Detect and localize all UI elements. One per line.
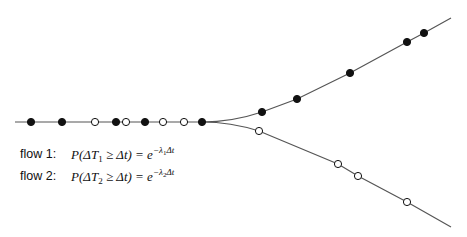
flow1-label: flow 1: bbox=[20, 147, 56, 161]
flow2-exponent-tail: Δt bbox=[166, 167, 174, 177]
flow2-packet-dot bbox=[159, 118, 166, 125]
flow1-packet-dot bbox=[141, 118, 148, 125]
flow1-packet-dot bbox=[293, 95, 300, 102]
flow1-packet-dot bbox=[27, 118, 34, 125]
flow2-packet-dot bbox=[334, 160, 341, 167]
flow1-packet-dot bbox=[346, 69, 353, 76]
diagram-canvas bbox=[0, 0, 467, 237]
flow1-formula: P(ΔT1 ≥ Δt) = e−λ1Δt bbox=[71, 145, 174, 164]
flow1-branch-line bbox=[202, 18, 451, 122]
flow1-formula-mid: ≥ Δt) = e bbox=[103, 147, 153, 162]
flow2-packet-dot bbox=[255, 127, 262, 134]
flow2-formula-mid: ≥ Δt) = e bbox=[103, 169, 153, 184]
flow1-exponent-tail: Δt bbox=[166, 145, 174, 155]
flow1-packet-dot bbox=[258, 108, 265, 115]
flow1-exponent-lambda: −λ bbox=[153, 145, 163, 155]
flow2-packet-dot bbox=[122, 118, 129, 125]
flow2-packet-dot bbox=[403, 198, 410, 205]
flow2-formula: P(ΔT2 ≥ Δt) = e−λ2Δt bbox=[71, 167, 174, 186]
flow1-formula-prefix: P(ΔT bbox=[71, 147, 98, 162]
flow2-label: flow 2: bbox=[20, 169, 56, 183]
flow1-packet-dot bbox=[420, 29, 427, 36]
flow2-branch-line bbox=[202, 122, 451, 227]
flow2-exponent-lambda: −λ bbox=[153, 167, 163, 177]
flow1-exponent: −λ1Δt bbox=[153, 145, 174, 155]
flow1-packet-dot bbox=[58, 118, 65, 125]
flow2-packet-dot bbox=[91, 118, 98, 125]
flow-split-diagram: flow 1: P(ΔT1 ≥ Δt) = e−λ1Δt flow 2: P(Δ… bbox=[0, 0, 467, 237]
flow1-packet-dot bbox=[198, 118, 205, 125]
flow2-exponent: −λ2Δt bbox=[153, 167, 174, 177]
flow2-packet-dot bbox=[354, 172, 361, 179]
flow2-formula-prefix: P(ΔT bbox=[71, 169, 98, 184]
flow2-packet-dot bbox=[180, 118, 187, 125]
flow1-packet-dot bbox=[403, 38, 410, 45]
flow1-packet-dot bbox=[112, 118, 119, 125]
